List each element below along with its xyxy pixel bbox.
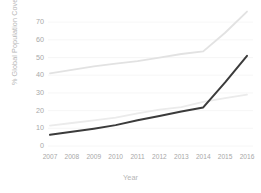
x-tick-label: 2016 xyxy=(234,153,260,160)
x-axis-label: Year xyxy=(0,173,261,182)
plot-area xyxy=(0,0,261,193)
line-chart: % Global Population Covered 010203040506… xyxy=(0,0,261,193)
series-lines xyxy=(50,12,247,135)
series-line xyxy=(50,95,247,126)
series-line xyxy=(50,56,247,135)
series-line xyxy=(50,12,247,74)
